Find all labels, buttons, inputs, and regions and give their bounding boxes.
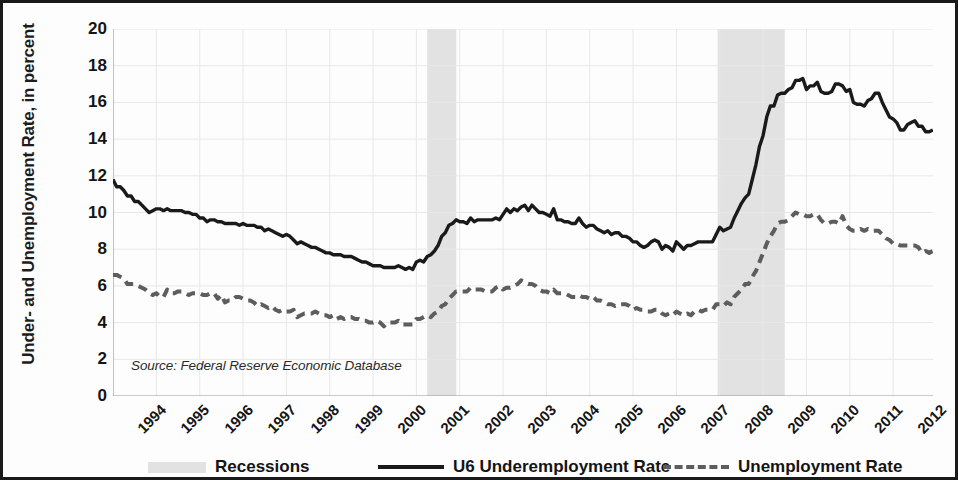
band-swatch: [148, 462, 206, 473]
y-tick-label: 14: [63, 129, 107, 149]
y-tick-label: 16: [63, 92, 107, 112]
data-series: [113, 79, 933, 327]
x-tick-label: 2007: [697, 401, 733, 437]
x-tick-label: 2002: [480, 401, 516, 437]
chart-canvas: [113, 29, 933, 396]
x-tick-label: 1994: [134, 401, 170, 437]
x-tick-label: 1996: [220, 401, 256, 437]
y-tick-label: 12: [63, 166, 107, 186]
x-tick-label: 2005: [611, 401, 647, 437]
x-tick-label: 2006: [654, 401, 690, 437]
chart-figure: Under- and Unemployment Rate, in percent…: [0, 0, 958, 480]
x-axis-tick-labels: 1994199519961997199819992000200120022003…: [3, 401, 958, 457]
x-tick-label: 2012: [914, 401, 950, 437]
y-axis-title: Under- and Unemployment Rate, in percent: [19, 14, 39, 374]
y-tick-label: 6: [63, 276, 107, 296]
x-tick-label: 2008: [741, 401, 777, 437]
x-tick-label: 1997: [264, 401, 300, 437]
source-note: Source: Federal Reserve Economic Databas…: [131, 358, 402, 373]
gridlines: [113, 29, 933, 396]
y-axis-tick-labels: 02468101214161820: [55, 29, 107, 396]
x-tick-label: 2001: [437, 401, 473, 437]
x-tick-label: 1999: [350, 401, 386, 437]
y-tick-label: 8: [63, 239, 107, 259]
y-tick-label: 10: [63, 203, 107, 223]
legend-item-label: Unemployment Rate: [738, 457, 902, 477]
legend-item[interactable]: Unemployment Rate: [663, 457, 902, 477]
x-tick-label: 1998: [307, 401, 343, 437]
dashed-line-swatch: [663, 465, 729, 469]
x-tick-label: 1995: [177, 401, 213, 437]
x-tick-label: 2009: [784, 401, 820, 437]
legend-item-label: Recessions: [215, 457, 310, 477]
y-tick-label: 2: [63, 349, 107, 369]
y-tick-label: 4: [63, 313, 107, 333]
y-tick-label: 18: [63, 56, 107, 76]
x-tick-label: 2011: [870, 401, 905, 436]
chart-legend: RecessionsU6 Underemployment RateUnemplo…: [3, 451, 958, 480]
legend-item-label: U6 Underemployment Rate: [453, 457, 670, 477]
x-tick-label: 2004: [567, 401, 603, 437]
legend-item[interactable]: Recessions: [148, 457, 310, 477]
x-tick-label: 2010: [827, 401, 863, 437]
x-tick-label: 2000: [394, 401, 430, 437]
solid-line-swatch: [378, 465, 444, 469]
legend-item[interactable]: U6 Underemployment Rate: [378, 457, 670, 477]
y-tick-label: 20: [63, 19, 107, 39]
x-tick-label: 2003: [524, 401, 560, 437]
plot-area: [113, 29, 933, 396]
